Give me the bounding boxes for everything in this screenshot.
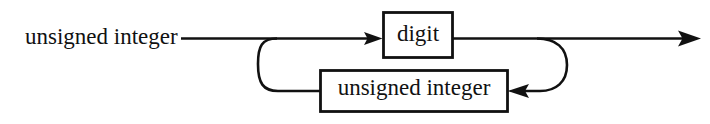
node-label-digit: digit	[397, 21, 440, 46]
node-label-unsigned-integer: unsigned integer	[338, 75, 491, 100]
rule-name-label: unsigned integer	[25, 24, 178, 49]
railroad-diagram: unsigned integer digit unsigned integer	[0, 0, 710, 124]
syntax-diagram-canvas: unsigned integer digit unsigned integer	[0, 0, 710, 124]
